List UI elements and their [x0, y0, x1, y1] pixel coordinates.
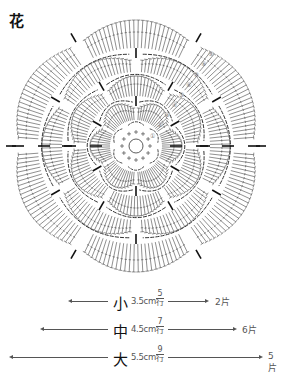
arrow-right-icon	[259, 355, 263, 359]
extent-line-left	[11, 357, 108, 358]
piece-count: 6片	[242, 323, 257, 336]
row-count-number: 5	[157, 289, 162, 298]
legend-row-large: 大 5.5cm 9 行 5片	[0, 348, 282, 374]
dimension-text: 4.5cm	[131, 324, 156, 334]
svg-text:③: ③	[165, 111, 170, 118]
row-count-number: 9	[157, 345, 162, 354]
svg-text:②: ②	[157, 121, 162, 128]
svg-text:⑦: ⑦	[194, 71, 199, 78]
crochet-chart: ①②③④⑤⑥⑦⑧⑨	[0, 0, 282, 290]
size-label: 大	[113, 348, 128, 369]
arrow-right-icon	[205, 299, 209, 303]
svg-text:⑧: ⑧	[201, 60, 206, 67]
legend-row-medium: 中 4.5cm 7 行 6片	[0, 320, 282, 346]
size-label: 小	[113, 292, 128, 313]
piece-count: 2片	[215, 295, 230, 308]
piece-count: 5片	[268, 351, 282, 374]
extent-line-left	[42, 329, 108, 330]
extent-line-right	[168, 329, 234, 330]
dimension-text: 5.5cm	[131, 352, 156, 362]
row-count: 9 行	[155, 346, 165, 363]
extent-line-left	[70, 301, 108, 302]
arrow-right-icon	[233, 327, 237, 331]
row-count-unit: 行	[156, 326, 164, 335]
svg-text:④: ④	[172, 101, 177, 108]
svg-text:⑨: ⑨	[208, 50, 213, 57]
legend-row-small: 小 3.5cm 5 行 2片	[0, 292, 282, 318]
extent-line-right	[168, 301, 206, 302]
row-count: 5 行	[155, 290, 165, 307]
extent-line-right	[168, 357, 260, 358]
row-count-unit: 行	[156, 298, 164, 307]
row-count-unit: 行	[156, 354, 164, 363]
row-count-number: 7	[157, 317, 162, 326]
size-label: 中	[113, 320, 128, 341]
svg-text:①: ①	[150, 132, 155, 139]
svg-text:⑤: ⑤	[179, 91, 184, 98]
dimension-text: 3.5cm	[131, 296, 156, 306]
svg-text:⑥: ⑥	[186, 81, 191, 88]
row-count: 7 行	[155, 318, 165, 335]
